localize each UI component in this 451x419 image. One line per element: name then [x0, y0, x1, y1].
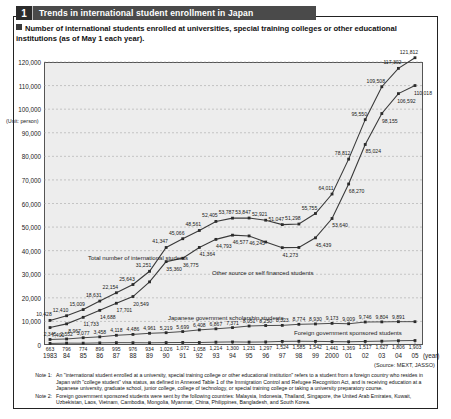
data-point-label: 35,360 — [166, 266, 182, 272]
data-point-label: 1,231 — [243, 345, 256, 351]
footnote-tag: Note 2: — [26, 393, 56, 406]
data-point-label: 11,733 — [84, 321, 99, 327]
figure-number: 1 — [16, 6, 33, 20]
data-point-label: 9,804 — [375, 314, 388, 320]
data-point-label: 8,930 — [309, 316, 322, 322]
data-point-label: 51,047 — [268, 216, 284, 222]
y-axis-tick: 30,000 — [22, 271, 41, 278]
data-point-label: 1,369 — [342, 345, 355, 351]
data-point-label: 68,270 — [349, 188, 365, 194]
data-point-label: 52,921 — [252, 211, 268, 217]
x-axis-tick: 84 — [63, 352, 70, 359]
data-point-label: 1,441 — [326, 345, 339, 351]
data-point-label: 106,592 — [397, 98, 415, 104]
data-point-label: 25,643 — [119, 276, 135, 282]
series-label-fgs: Foreign government sponsored students — [294, 330, 402, 336]
data-point-label: 5,219 — [160, 325, 173, 331]
x-axis-tick: 86 — [96, 352, 103, 359]
y-axis-tick: 0 — [37, 342, 41, 349]
data-point-label: 17,701 — [117, 307, 133, 313]
x-axis-tick: 93 — [212, 352, 219, 359]
figure-banner: 1 Trends in international student enroll… — [16, 6, 316, 20]
x-axis-unit-label: (year) — [423, 352, 439, 359]
x-axis-tick: 2000 — [325, 352, 339, 359]
data-point-label: 4,961 — [143, 325, 156, 331]
data-point-label: 1,542 — [309, 344, 322, 350]
x-axis-tick: 04 — [395, 352, 402, 359]
y-axis-tick: 40,000 — [22, 247, 41, 254]
data-point-label: 53,640 — [332, 222, 348, 228]
x-axis-tick: 1983 — [43, 352, 57, 359]
footnote: Note 1:An "international student enrolle… — [26, 372, 426, 392]
footnote: Note 2:Foreign government sponsored stud… — [26, 393, 426, 406]
y-axis-tick: 120,000 — [18, 59, 41, 66]
data-point-label: 9,009 — [342, 316, 355, 322]
x-axis-tick: 94 — [229, 352, 236, 359]
x-axis-tick: 96 — [262, 352, 269, 359]
x-axis-tick: 97 — [279, 352, 286, 359]
data-point-label: 3,458 — [93, 329, 106, 335]
x-axis-tick: 05 — [411, 352, 418, 359]
footnotes: Note 1:An "international student enrolle… — [26, 372, 426, 407]
data-point-label: 45,439 — [316, 242, 332, 248]
data-point-label: 934 — [145, 346, 154, 352]
data-point-label: 46,577 — [233, 239, 249, 245]
x-axis-tick: 01 — [345, 352, 352, 359]
data-point-label: 78,812 — [335, 150, 351, 156]
y-axis-labels: (Unit: person) 010,00020,00030,00040,000… — [0, 62, 41, 345]
data-point-label: 976 — [129, 346, 138, 352]
data-point-label: 45,066 — [169, 230, 185, 236]
source-note: (Source: MEXT, JASSO) — [374, 362, 435, 368]
x-axis-tick: 95 — [246, 352, 253, 359]
data-point-label: 95,550 — [351, 111, 367, 117]
x-axis-labels: 1983848586878889909192939495969798992000… — [44, 352, 423, 364]
footnote-tag: Note 1: — [26, 372, 56, 392]
data-point-label: 48,561 — [186, 221, 202, 227]
data-point-label: 121,812 — [400, 49, 418, 55]
data-point-label: 1,214 — [210, 345, 223, 351]
data-point-label: 1,297 — [259, 345, 272, 351]
data-point-label: 53,787 — [219, 209, 235, 215]
y-axis-unit-label: (Unit: person) — [6, 118, 39, 124]
bullet-square-icon — [16, 24, 22, 30]
data-point-label: 1,300 — [226, 345, 239, 351]
y-axis-tick: 100,000 — [18, 106, 41, 113]
x-axis-tick: 89 — [146, 352, 153, 359]
data-point-label: 1,806 — [392, 344, 405, 350]
y-axis-tick: 60,000 — [22, 200, 41, 207]
data-point-label: 117,302 — [383, 59, 401, 65]
x-axis-tick: 03 — [378, 352, 385, 359]
data-point-label: 52,405 — [202, 212, 218, 218]
data-point-label: 1,058 — [193, 346, 206, 352]
data-point-label: 15,009 — [69, 301, 85, 307]
x-axis-tick: 98 — [295, 352, 302, 359]
y-axis-tick: 90,000 — [22, 129, 41, 136]
data-point-label: 2,552 — [60, 331, 73, 337]
data-point-label: 41,347 — [152, 238, 168, 244]
data-point-label: 110,018 — [414, 90, 432, 96]
y-axis-tick: 110,000 — [19, 82, 41, 89]
data-point-label: 6,867 — [210, 321, 223, 327]
data-point-label: 2,345 — [44, 331, 57, 337]
data-point-label: 1,585 — [292, 344, 305, 350]
data-point-label: 9,891 — [392, 314, 405, 320]
chart-canvas — [44, 62, 423, 345]
y-axis-tick: 20,000 — [22, 294, 41, 301]
data-point-label: 3,077 — [77, 330, 90, 336]
data-point-label: 1,627 — [375, 344, 388, 350]
data-point-label: 98,155 — [382, 118, 398, 124]
data-point-label: 64,011 — [318, 185, 333, 191]
data-point-label: 41,273 — [282, 252, 298, 258]
data-point-label: 22,154 — [103, 284, 119, 290]
x-axis-tick: 99 — [312, 352, 319, 359]
figure-subtitle-text: Number of international students enrolle… — [16, 24, 397, 43]
x-axis-tick: 02 — [362, 352, 369, 359]
series-label-jgs: Japanese government scholarship students — [168, 315, 284, 321]
series-label-total: Total number of international students — [88, 255, 188, 261]
footnote-text: Foreign government sponsored students we… — [56, 393, 426, 406]
data-point-label: 18,631 — [86, 292, 102, 298]
data-point-label: 31,251 — [136, 262, 152, 268]
data-point-label: 109,508 — [367, 78, 385, 84]
y-axis-tick: 10,000 — [22, 318, 41, 325]
data-point-label: 6,408 — [193, 322, 206, 328]
